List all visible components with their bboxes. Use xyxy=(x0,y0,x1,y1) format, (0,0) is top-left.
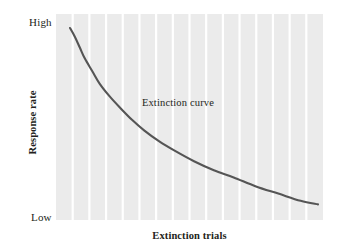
plot-area xyxy=(56,14,323,220)
y-axis-title: Response rate xyxy=(27,53,38,193)
plot-canvas xyxy=(56,14,323,220)
y-axis-tick-high: High xyxy=(29,16,52,28)
curve-annotation-label: Extinction curve xyxy=(142,97,214,108)
y-axis-tick-low: Low xyxy=(31,211,52,223)
x-axis-title: Extinction trials xyxy=(56,230,323,241)
vertical-gridlines xyxy=(73,14,307,220)
extinction-curve-line xyxy=(70,28,318,204)
extinction-curve-figure: Response rate High Low Extinction curve … xyxy=(0,0,345,250)
